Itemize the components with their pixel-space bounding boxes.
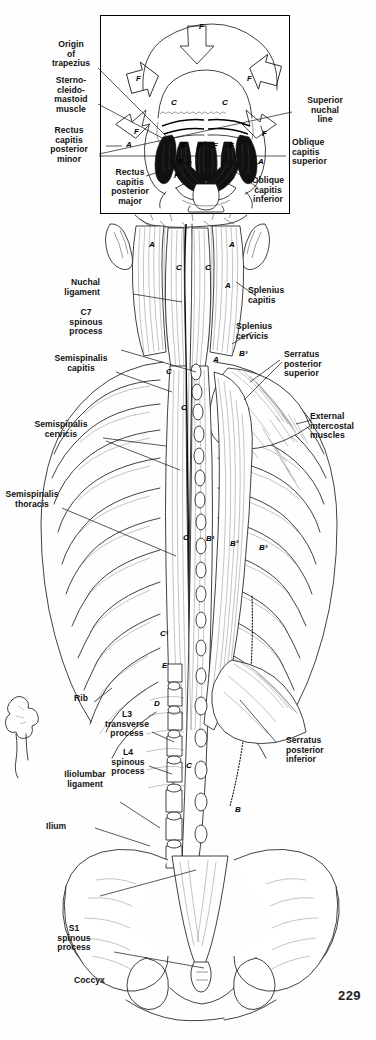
marker-b-lumbar: B [235, 806, 241, 814]
marker-f-muscle-1: F [181, 142, 186, 150]
marker-f-upper-left: F [136, 75, 141, 83]
label-semispinalis-cervicis: Semispinalis cervicis [20, 420, 102, 439]
label-rectus-capitis-posterior-minor: Rectus capitis posterior minor [40, 126, 98, 164]
label-superior-nuchal-line: Superior nuchal line [294, 96, 356, 125]
label-semispinalis-thoracis: Semispinalis thoracis [0, 490, 64, 509]
marker-e: E [162, 662, 167, 670]
marker-f-muscle-6: F [174, 172, 179, 180]
marker-f-muscle-2: F [198, 142, 203, 150]
marker-c-neck-left: C [176, 264, 182, 272]
marker-f-lower-left: F [134, 128, 139, 136]
label-coccyx: Coccyx [74, 976, 118, 986]
label-rectus-capitis-posterior-major: Rectus capitis posterior major [102, 168, 158, 206]
marker-b1: B¹ [206, 535, 214, 543]
marker-f-upper-right: F [247, 75, 252, 83]
marker-f-muscle-5: F [178, 158, 183, 166]
label-origin-of-trapezius: Origin of trapezius [44, 40, 98, 69]
label-serratus-posterior-superior: Serratus posterior superior [284, 350, 346, 379]
marker-c-inset-left: C [171, 99, 177, 107]
label-iliolumbar-ligament: Iliolumbar ligament [50, 770, 120, 789]
marker-f-muscle-3: F [213, 142, 218, 150]
marker-a-splenius: A [225, 282, 231, 290]
label-c7-spinous-process: C7 spinous process [58, 308, 114, 337]
label-l3-transverse-process: L3 transverse process [98, 710, 156, 739]
label-rib: Rib [74, 694, 104, 704]
marker-b3-upper: B³ [239, 350, 247, 358]
page-number: 229 [338, 988, 361, 1003]
marker-b3: B³ [259, 544, 267, 552]
label-oblique-capitis-superior: Oblique capitis superior [292, 138, 354, 167]
marker-c-inset-right: C [222, 99, 228, 107]
anatomical-plate: Origin of trapezius Sterno- cleido- mast… [0, 0, 376, 1040]
marker-c1: C¹ [160, 630, 168, 638]
marker-c-mid: C [181, 404, 187, 412]
marker-a-right-neck: A [229, 241, 235, 249]
marker-a-left-neck: A [149, 241, 155, 249]
marker-a-inset-right: A [258, 158, 264, 166]
marker-d: D [154, 700, 160, 708]
marker-b2: B² [230, 540, 238, 548]
marker-c-neck-right: C [205, 264, 211, 272]
marker-f-top: F [199, 23, 204, 31]
label-splenius-capitis: Splenius capitis [248, 286, 304, 305]
force-arrows [116, 26, 283, 138]
label-ilium: Ilium [46, 822, 86, 832]
marker-c-lumbar: C [186, 762, 192, 770]
marker-a-inset-left: A [126, 141, 132, 149]
label-serratus-posterior-inferior: Serratus posterior inferior [286, 736, 348, 765]
label-splenius-cervicis: Splenius cervicis [236, 322, 294, 341]
label-external-intercostal-muscles: External intercostal muscles [310, 412, 374, 441]
marker-f-muscle-4: F [229, 142, 234, 150]
label-oblique-capitis-inferior: Oblique capitis inferior [242, 176, 294, 205]
label-nuchal-ligament: Nuchal ligament [34, 278, 100, 297]
marker-c-mid-upper: C [166, 368, 172, 376]
marker-a-splenius-2: A [213, 356, 219, 364]
label-sternocleidomastoid-muscle: Sterno- cleido- mastoid muscle [44, 76, 98, 114]
marker-f-lower-right: F [262, 130, 267, 138]
label-semispinalis-capitis: Semispinalis capitis [44, 354, 118, 373]
marker-c-thoracic: C [183, 534, 189, 542]
label-s1-spinous-process: S1 spinous process [48, 924, 100, 953]
